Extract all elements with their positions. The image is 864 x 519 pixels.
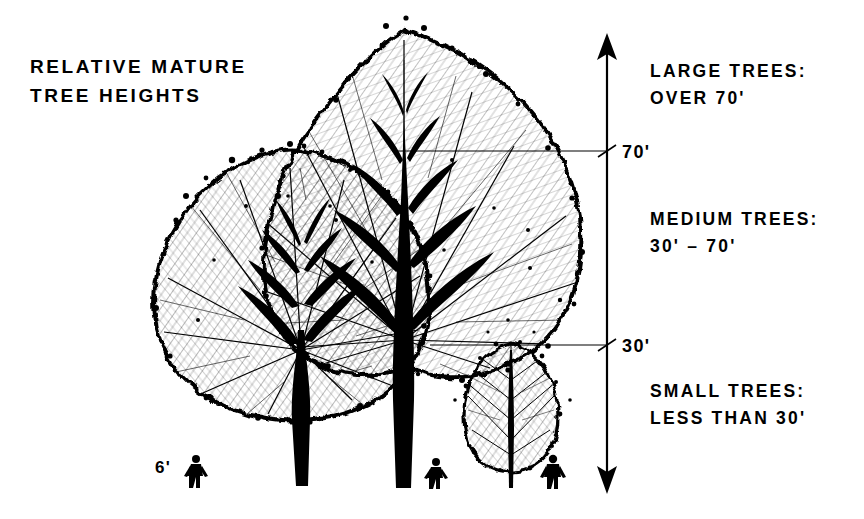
category-medium-line-2: 30' – 70' [650,236,737,256]
axis-tick-label-70ft: 70' [622,139,651,167]
height-axis [597,33,617,494]
scale-reference-label: 6' [155,455,171,481]
category-large-line-1: LARGE TREES: [650,61,807,81]
ground-line [42,486,845,494]
tree-height-diagram: RELATIVE MATURE TREE HEIGHTS LARGE TREES… [0,0,864,519]
category-medium-line-1: MEDIUM TREES: [650,209,819,229]
title-line-1: RELATIVE MATURE [30,56,247,77]
axis-tick-label-30ft: 30' [622,333,651,361]
category-small-line-2: LESS THAN 30' [650,408,806,428]
title-line-2: TREE HEIGHTS [30,85,202,106]
page-title: RELATIVE MATURE TREE HEIGHTS [30,52,247,111]
category-small-line-1: SMALL TREES: [650,381,805,401]
category-label-medium: MEDIUM TREES: 30' – 70' [650,206,819,260]
category-large-line-2: OVER 70' [650,88,746,108]
category-label-small: SMALL TREES: LESS THAN 30' [650,378,806,432]
category-label-large: LARGE TREES: OVER 70' [650,58,807,112]
